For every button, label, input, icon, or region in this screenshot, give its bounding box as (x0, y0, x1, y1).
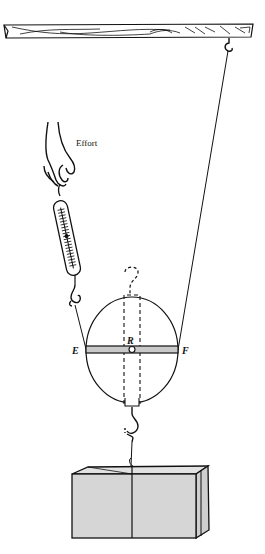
pulley-top-hook (125, 267, 138, 295)
load-hook (125, 407, 138, 442)
ceiling-hook (225, 38, 232, 51)
load-rope (130, 442, 133, 466)
ceiling-beam (4, 24, 253, 38)
load-block (72, 466, 209, 538)
spring-balance (52, 184, 81, 285)
balance-hook (70, 285, 81, 306)
pulley-diagram: Effort (0, 0, 265, 554)
hand-icon (44, 122, 75, 186)
axle-pin (129, 347, 135, 353)
label-r: R (126, 335, 134, 346)
label-f: F (181, 345, 189, 356)
strap-bottom-tab (125, 398, 139, 406)
rope-left (75, 305, 86, 349)
rope-right (178, 51, 228, 350)
effort-label: Effort (76, 138, 98, 148)
label-e: E (71, 345, 79, 356)
